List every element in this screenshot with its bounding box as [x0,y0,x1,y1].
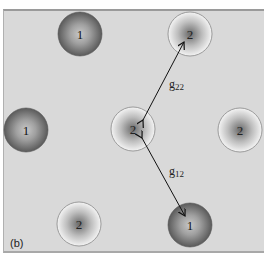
panel-label: (b) [10,237,23,249]
particle-type2: 2 [168,12,212,56]
particle-label: 2 [130,122,137,137]
particle-type1: 1 [168,203,212,247]
g12-label: g12 [169,164,184,179]
particle-type2: 2 [111,107,155,151]
diagram-canvas: 1 2 1 2 2 2 1 g22 g12 (b) [0,0,264,259]
particle-label: 2 [237,123,244,138]
particle-type1: 1 [58,12,102,56]
particle-type1: 1 [4,108,48,152]
particle-label: 1 [23,123,30,138]
particle-label: 1 [187,218,194,233]
arrow-g22 [143,42,184,120]
particle-label: 2 [76,217,83,232]
particle-type2: 2 [57,202,101,246]
particle-label: 2 [187,27,194,42]
particle-type2: 2 [218,108,262,152]
g22-label: g22 [169,77,184,92]
particle-label: 1 [77,27,84,42]
